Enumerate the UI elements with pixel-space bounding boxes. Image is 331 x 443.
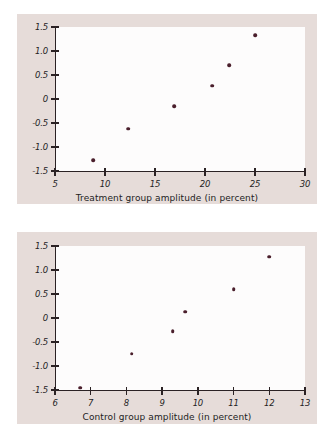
x-tick bbox=[304, 387, 305, 395]
chart-panel-treatment: -1.5-1.0-0.500.51.01.551015202530 Treatm… bbox=[17, 14, 317, 204]
x-tick bbox=[54, 168, 55, 176]
x-axis-title-control: Control group amplitude (in percent) bbox=[17, 412, 317, 422]
y-tick-label: -1.5 bbox=[32, 166, 48, 176]
y-tick bbox=[51, 341, 59, 342]
data-point bbox=[227, 63, 231, 67]
y-tick-label: 1.5 bbox=[35, 241, 48, 251]
y-tick-label: 0.5 bbox=[35, 289, 48, 299]
x-axis-line bbox=[55, 390, 305, 391]
y-tick-label: 1.0 bbox=[35, 265, 48, 275]
data-point bbox=[253, 33, 257, 37]
x-tick bbox=[204, 168, 205, 176]
y-tick-label: -0.5 bbox=[32, 337, 48, 347]
y-tick-label: 1.0 bbox=[35, 46, 48, 56]
y-tick-label: -1.0 bbox=[32, 142, 48, 152]
x-tick bbox=[233, 387, 234, 395]
y-tick bbox=[51, 146, 59, 147]
y-tick bbox=[51, 317, 59, 318]
y-tick-label: 0 bbox=[43, 313, 48, 323]
y-tick-label: 0 bbox=[43, 94, 48, 104]
x-tick bbox=[104, 168, 105, 176]
x-tick bbox=[254, 168, 255, 176]
x-tick bbox=[304, 168, 305, 176]
x-tick-label: 9 bbox=[160, 398, 165, 408]
y-tick bbox=[51, 50, 59, 51]
data-point bbox=[126, 127, 130, 131]
y-tick-label: 0.5 bbox=[35, 70, 48, 80]
x-tick-label: 25 bbox=[250, 179, 260, 189]
x-tick-label: 10 bbox=[100, 179, 110, 189]
x-tick-label: 20 bbox=[200, 179, 210, 189]
y-tick-label: -0.5 bbox=[32, 118, 48, 128]
data-point bbox=[130, 352, 134, 356]
x-tick-label: 8 bbox=[124, 398, 129, 408]
y-tick bbox=[51, 365, 59, 366]
x-tick bbox=[54, 387, 55, 395]
x-tick-label: 10 bbox=[193, 398, 203, 408]
x-tick bbox=[154, 168, 155, 176]
x-tick bbox=[90, 387, 91, 395]
y-tick bbox=[51, 245, 59, 246]
x-tick-label: 5 bbox=[52, 179, 57, 189]
plot-area-treatment bbox=[55, 27, 305, 171]
x-tick bbox=[197, 387, 198, 395]
plot-treatment: -1.5-1.0-0.500.51.01.551015202530 Treatm… bbox=[17, 14, 317, 204]
plot-control: -1.5-1.0-0.500.51.01.5678910111213 Contr… bbox=[17, 232, 317, 424]
y-tick bbox=[51, 122, 59, 123]
y-tick bbox=[51, 74, 59, 75]
data-point bbox=[78, 386, 82, 390]
data-point bbox=[91, 159, 95, 163]
data-point bbox=[267, 255, 271, 259]
x-tick-label: 30 bbox=[300, 179, 310, 189]
x-tick bbox=[269, 387, 270, 395]
y-tick bbox=[51, 269, 59, 270]
data-point bbox=[232, 287, 236, 291]
chart-panel-control: -1.5-1.0-0.500.51.01.5678910111213 Contr… bbox=[17, 232, 317, 424]
x-tick-label: 15 bbox=[150, 179, 160, 189]
data-point bbox=[210, 84, 214, 88]
x-tick-label: 7 bbox=[88, 398, 93, 408]
x-tick bbox=[126, 387, 127, 395]
data-point bbox=[172, 104, 176, 108]
x-axis-line bbox=[55, 171, 305, 172]
y-tick bbox=[51, 98, 59, 99]
data-point bbox=[184, 310, 188, 314]
x-tick-label: 11 bbox=[228, 398, 238, 408]
y-tick-label: -1.0 bbox=[32, 361, 48, 371]
plot-area-control bbox=[55, 246, 305, 390]
y-tick-label: -1.5 bbox=[32, 385, 48, 395]
data-point bbox=[171, 330, 175, 334]
x-tick-label: 6 bbox=[52, 398, 57, 408]
y-tick-label: 1.5 bbox=[35, 22, 48, 32]
x-tick-label: 13 bbox=[300, 398, 310, 408]
x-tick bbox=[161, 387, 162, 395]
y-tick bbox=[51, 293, 59, 294]
x-tick-label: 12 bbox=[264, 398, 274, 408]
y-tick bbox=[51, 26, 59, 27]
x-axis-title-treatment: Treatment group amplitude (in percent) bbox=[17, 193, 317, 203]
